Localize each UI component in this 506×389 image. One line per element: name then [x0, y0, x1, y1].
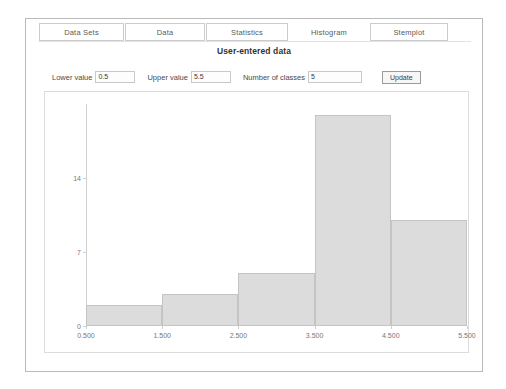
y-tick-label: 7	[77, 249, 81, 256]
plot-area: 07140.5001.5002.5003.5004.5005.500	[86, 104, 467, 326]
x-tick-mark	[467, 326, 468, 329]
tab-stemplot[interactable]: Stemplot	[370, 23, 448, 41]
lower-value-input[interactable]	[95, 71, 135, 83]
histogram-bar	[162, 294, 238, 326]
lower-value-group: Lower value	[52, 71, 135, 83]
y-tick-mark	[83, 178, 86, 179]
x-tick-mark	[391, 326, 392, 329]
tab-data-sets[interactable]: Data Sets	[39, 23, 124, 41]
histogram-bar	[315, 115, 391, 326]
number-of-classes-input[interactable]	[308, 71, 362, 83]
application-window: Data SetsDataStatisticsHistogramStemplot…	[25, 18, 483, 372]
upper-value-label: Upper value	[147, 73, 187, 82]
x-tick-label: 5.500	[458, 332, 476, 339]
upper-value-input[interactable]	[191, 71, 231, 83]
number-of-classes-label: Number of classes	[243, 73, 305, 82]
tab-strip: Data SetsDataStatisticsHistogramStemplot	[26, 23, 482, 43]
histogram-bar	[86, 305, 162, 326]
histogram-bar	[238, 273, 314, 326]
y-axis-line	[86, 104, 87, 326]
x-tick-mark	[315, 326, 316, 329]
x-tick-label: 3.500	[306, 332, 324, 339]
x-tick-mark	[238, 326, 239, 329]
tab-histogram[interactable]: Histogram	[289, 23, 369, 41]
page-title: User-entered data	[26, 46, 482, 56]
x-tick-label: 0.500	[77, 332, 95, 339]
tab-statistics[interactable]: Statistics	[206, 23, 288, 41]
tab-data[interactable]: Data	[125, 23, 205, 41]
x-tick-mark	[86, 326, 87, 329]
number-of-classes-group: Number of classes	[243, 71, 362, 83]
lower-value-label: Lower value	[52, 73, 92, 82]
tab-strip-divider	[39, 41, 471, 42]
histogram-controls: Lower value Upper value Number of classe…	[52, 69, 421, 85]
x-tick-label: 2.500	[230, 332, 248, 339]
update-button[interactable]: Update	[382, 71, 421, 84]
y-tick-label: 14	[73, 175, 81, 182]
y-tick-mark	[83, 252, 86, 253]
histogram-chart-panel: 07140.5001.5002.5003.5004.5005.500	[44, 91, 469, 353]
upper-value-group: Upper value	[147, 71, 230, 83]
y-tick-label: 0	[77, 323, 81, 330]
x-tick-label: 4.500	[382, 332, 400, 339]
x-tick-label: 1.500	[153, 332, 171, 339]
x-tick-mark	[162, 326, 163, 329]
histogram-bar	[391, 220, 467, 326]
